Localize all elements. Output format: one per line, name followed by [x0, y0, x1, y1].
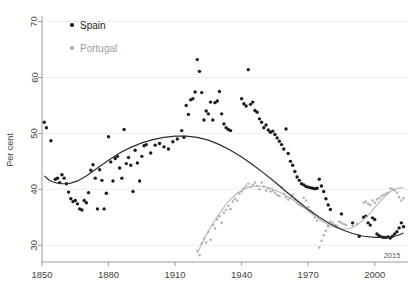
data-point [234, 198, 237, 201]
data-point [298, 179, 301, 182]
x-axis-end-label: 2015 [384, 251, 401, 260]
data-point [376, 198, 379, 201]
data-point [167, 147, 170, 150]
data-point [282, 147, 285, 150]
data-point [254, 181, 257, 184]
data-point [378, 197, 381, 200]
data-point [402, 225, 405, 228]
data-point [171, 140, 174, 143]
data-point [240, 97, 243, 100]
x-tick-label: 1880 [98, 269, 119, 280]
data-point [214, 227, 217, 230]
data-point [278, 195, 281, 198]
data-point [198, 70, 201, 73]
data-point [162, 145, 165, 148]
data-point [227, 205, 230, 208]
data-point [138, 179, 141, 182]
data-point [291, 164, 294, 167]
data-point [196, 58, 199, 61]
data-point [118, 166, 121, 169]
data-point [153, 143, 156, 146]
data-point [125, 162, 128, 165]
data-point [176, 137, 179, 140]
data-point [69, 197, 72, 200]
data-point [245, 185, 248, 188]
data-point [102, 207, 105, 210]
data-point [158, 142, 161, 145]
data-point [218, 90, 221, 93]
data-point [225, 209, 228, 212]
data-point [331, 222, 334, 225]
data-point [397, 226, 400, 229]
data-point [289, 160, 292, 163]
y-axis-title: Per cent [5, 133, 15, 167]
data-point [211, 118, 214, 121]
data-point [96, 207, 99, 210]
data-point [340, 212, 343, 215]
data-point [49, 139, 52, 142]
data-point [293, 170, 296, 173]
data-point [255, 110, 258, 113]
data-point [205, 241, 208, 244]
data-point [271, 129, 274, 132]
data-point [222, 122, 225, 125]
data-point [324, 197, 327, 200]
legend-marker-spain [70, 23, 74, 27]
data-point [260, 121, 263, 124]
y-tick-label: 30 [29, 240, 40, 251]
data-point [371, 199, 374, 202]
data-point [209, 238, 212, 241]
data-point [105, 192, 108, 195]
data-point [276, 194, 279, 197]
data-point [382, 194, 385, 197]
data-point [131, 190, 134, 193]
data-point [45, 126, 48, 129]
data-point [362, 201, 365, 204]
data-point [329, 208, 332, 211]
data-point [258, 188, 261, 191]
y-axis-ticks: 3040506070 [28, 16, 42, 250]
data-point [193, 90, 196, 93]
x-tick-label: 1940 [231, 269, 252, 280]
data-point [400, 199, 403, 202]
data-point [342, 223, 345, 226]
data-point [275, 136, 278, 139]
data-point [395, 230, 398, 233]
data-point [389, 187, 392, 190]
data-point [295, 175, 298, 178]
data-point [198, 254, 201, 256]
trend-line-spain [44, 136, 403, 237]
data-point [111, 179, 114, 182]
data-point [220, 112, 223, 115]
y-tick-label: 70 [28, 16, 39, 27]
data-point [280, 143, 283, 146]
data-point [345, 224, 348, 227]
gridlines [42, 22, 408, 246]
data-point [56, 176, 59, 179]
y-tick-label: 60 [29, 72, 40, 83]
data-point [191, 97, 194, 100]
y-tick-label: 40 [29, 184, 40, 195]
data-point [318, 178, 321, 181]
data-point [43, 121, 46, 124]
data-point [278, 140, 281, 143]
data-point [120, 176, 123, 179]
data-point [127, 156, 130, 159]
x-tick-label: 2000 [364, 269, 385, 280]
data-point [129, 164, 132, 167]
data-point [316, 219, 319, 222]
data-point [396, 191, 399, 194]
data-point [373, 201, 376, 204]
data-point [200, 91, 203, 94]
data-point [338, 221, 341, 224]
data-point [262, 126, 265, 129]
scatter-chart: 3040506070 185018801910194019702000 Per … [0, 0, 416, 297]
data-point [287, 152, 290, 155]
data-point [369, 223, 372, 226]
legend-marker-portugal [70, 46, 74, 50]
data-point [109, 160, 112, 163]
data-point [400, 221, 403, 224]
data-point [107, 135, 110, 138]
data-point [274, 191, 277, 194]
data-point [398, 196, 401, 199]
